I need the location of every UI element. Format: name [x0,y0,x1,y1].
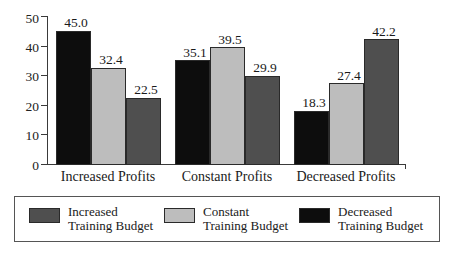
bar-g0-s2[interactable] [126,98,161,165]
bar-value-g0-s2: 22.5 [116,83,176,97]
bar-value-g1-s2: 29.9 [235,61,295,75]
y-tick-label-30: 30 [0,70,39,84]
legend-label-decreased-line1: Decreased [338,205,423,219]
legend-item-increased-training-budget[interactable]: Increased Training Budget [29,205,153,235]
y-tick-label-0: 0 [0,159,39,173]
bar-g1-s2[interactable] [245,76,280,165]
bar-chart-figure: 50 40 30 20 10 0 45.0 32.4 22.5 35.1 39.… [0,0,454,256]
x-axis-end-tick [405,164,406,169]
legend-swatch-decreased-icon [299,208,330,223]
legend-label-increased-line2: Training Budget [68,219,153,233]
legend-swatch-increased-icon [29,208,60,223]
legend-label-constant-line2: Training Budget [203,219,288,233]
legend-item-constant-training-budget[interactable]: Constant Training Budget [164,205,288,235]
legend-label-decreased: Decreased Training Budget [338,205,423,233]
bar-value-g2-s1: 27.4 [319,69,379,83]
y-tick-label-20: 20 [0,100,39,114]
y-tick-label-40: 40 [0,41,39,55]
legend-label-decreased-line2: Training Budget [338,219,423,233]
bar-value-g2-s2: 42.2 [354,25,414,39]
bar-g1-s0[interactable] [175,60,210,165]
bar-value-g0-s1: 32.4 [81,53,141,67]
bar-value-g0-s0: 45.0 [46,16,106,30]
chart-legend: Increased Training Budget Constant Train… [14,196,440,242]
y-tick-label-10: 10 [0,129,39,143]
x-category-label-2: Decreased Profits [276,170,416,184]
y-tick-label-50: 50 [0,12,39,26]
bar-value-g1-s1: 39.5 [200,33,260,47]
legend-label-increased-line1: Increased [68,205,153,219]
bar-value-g1-s0: 35.1 [165,46,225,60]
legend-label-increased: Increased Training Budget [68,205,153,233]
legend-swatch-constant-icon [164,208,195,223]
bar-value-g2-s0: 18.3 [284,96,344,110]
bar-g2-s0[interactable] [294,111,329,166]
bar-g2-s2[interactable] [364,39,399,165]
bar-g0-s0[interactable] [56,31,91,165]
legend-label-constant-line1: Constant [203,205,288,219]
legend-label-constant: Constant Training Budget [203,205,288,233]
legend-item-decreased-training-budget[interactable]: Decreased Training Budget [299,205,423,235]
